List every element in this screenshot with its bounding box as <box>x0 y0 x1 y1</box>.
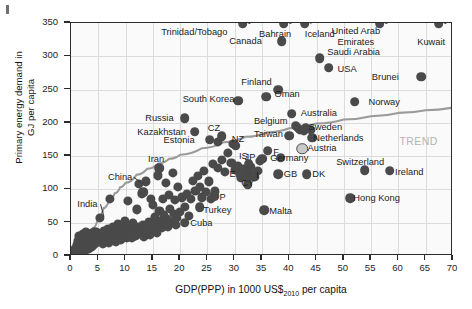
point-label-saudi-arabia: Saudi Arabia <box>327 47 380 57</box>
clipped-value-arrow-stem <box>290 22 291 24</box>
point-label-iran: Iran <box>148 154 164 164</box>
point-label-united-arab-emirates: United Arab Emirates <box>327 26 385 47</box>
point-label-cuba: Cuba <box>190 218 212 228</box>
x-tick-mark <box>97 255 98 260</box>
x-tick-mark <box>124 255 125 260</box>
x-tick-label: 55 <box>355 263 385 273</box>
point-label-dk: DK <box>312 169 325 179</box>
x-tick-mark <box>342 255 343 260</box>
point-label-trinidad-tobago: Trinidad/Tobago <box>161 27 227 37</box>
scatter-point-brunei <box>417 72 427 82</box>
clipped-value-arrow-stem <box>249 22 250 24</box>
x-tick-label: 70 <box>437 263 467 273</box>
point-label-russia: Russia <box>145 113 173 123</box>
y-tick-label: 0 <box>28 250 58 260</box>
point-label-south-korea: South Korea <box>183 94 235 104</box>
x-tick-mark <box>288 255 289 260</box>
x-tick-label: 35 <box>246 263 276 273</box>
point-label-hong-kong: Hong Kong <box>353 193 400 203</box>
point-label-estonia: Estonia <box>164 135 195 145</box>
x-tick-label: 45 <box>301 263 331 273</box>
point-label-malta: Malta <box>269 206 292 216</box>
scatter-point-dk <box>302 169 312 179</box>
scatter-point-india <box>90 227 100 237</box>
point-label-cz: CZ <box>208 123 220 133</box>
y-tick-label: 250 <box>28 84 58 94</box>
x-tick-label: 60 <box>382 263 412 273</box>
clipped-value-arrow-stem <box>445 22 446 24</box>
x-tick-mark <box>369 255 370 260</box>
point-label-kuwait: Kuwait <box>417 37 445 47</box>
point-label-austria: Austria <box>308 143 337 153</box>
x-tick-label: 30 <box>219 263 249 273</box>
scatter-point-norway <box>350 97 360 107</box>
scatter-point-russia <box>180 113 190 123</box>
point-label-australia: Australia <box>301 108 337 118</box>
y-tick-label: 350 <box>28 17 58 27</box>
point-label-ireland: Ireland <box>395 167 423 177</box>
scatter-point-ireland <box>385 166 395 176</box>
x-tick-label: 10 <box>110 263 140 273</box>
x-tick-label: 5 <box>82 263 112 273</box>
point-label-gb: GB <box>284 169 297 179</box>
point-label-canada: Canada <box>229 36 262 46</box>
point-label-netherlands: Netherlands <box>313 133 363 143</box>
x-tick-mark <box>451 255 452 260</box>
scatter-point-cuba <box>180 218 190 228</box>
point-label-is: IS <box>239 151 248 161</box>
scatter-point-usa <box>324 63 334 73</box>
trend-annotation-label: TREND <box>400 135 438 147</box>
point-label-norway: Norway <box>368 97 400 107</box>
point-label-bahrain: Bahrain <box>259 29 291 39</box>
scatter-plot-area: Trinidad/TobagoBahrainCanadaIcelandUnite… <box>70 22 452 255</box>
point-label-p: P <box>220 192 226 202</box>
point-label-usa: USA <box>338 64 357 74</box>
x-tick-label: 65 <box>410 263 440 273</box>
x-axis-title-year: 2010 <box>284 290 300 297</box>
scatter-point-p <box>209 191 219 201</box>
scatter-point-gb <box>274 169 284 179</box>
clipped-value-arrow-stem <box>386 22 387 24</box>
x-tick-label: 25 <box>191 263 221 273</box>
scatter-point-iceland <box>300 22 310 28</box>
point-label-nz: NZ <box>232 134 244 144</box>
x-tick-mark <box>151 255 152 260</box>
y-tick-label: 300 <box>28 50 58 60</box>
y-tick-label: 50 <box>28 217 58 227</box>
point-label-germany: Germany <box>270 153 308 163</box>
scatter-point-estonia <box>205 135 215 145</box>
scatter-point-iran <box>155 163 165 173</box>
x-tick-mark <box>315 255 316 260</box>
x-tick-label: 40 <box>273 263 303 273</box>
x-tick-mark <box>424 255 425 260</box>
scatter-point-kuwait <box>434 22 444 28</box>
point-label-turkey: Turkey <box>203 205 231 215</box>
x-tick-mark <box>178 255 179 260</box>
point-label-sweden: Sweden <box>308 122 342 132</box>
x-tick-mark <box>260 255 261 260</box>
scatter-point-trinidad-tobago <box>238 22 248 28</box>
point-label-e: E <box>229 169 235 179</box>
point-label-taiwan: Taiwan <box>254 129 283 139</box>
scatter-point-oman <box>262 92 272 102</box>
scatter-point-belgium <box>291 121 301 131</box>
point-label-cy: CY <box>241 178 254 188</box>
clipped-value-arrow-stem <box>310 22 311 24</box>
y-tick-label: 200 <box>28 117 58 127</box>
point-label-india: India <box>77 199 97 209</box>
point-label-belgium: Belgium <box>254 116 288 126</box>
scatter-point-bahrain <box>279 22 289 28</box>
x-tick-label: 15 <box>137 263 167 273</box>
point-label-brunei: Brunei <box>372 72 399 82</box>
point-label-finland: Finland <box>241 77 272 87</box>
scatter-point-switzerland <box>360 165 370 175</box>
point-label-china: China <box>108 172 132 182</box>
point-label-oman: Oman <box>274 89 299 99</box>
x-tick-label: 50 <box>328 263 358 273</box>
x-axis-title-main: GDP(PPP) in 1000 US$ <box>175 284 283 295</box>
scatter-point-jp <box>257 154 267 164</box>
corner-registration-mark <box>6 5 9 14</box>
scatter-point-malta <box>259 205 269 215</box>
point-label-switzerland: Switzerland <box>336 157 384 167</box>
y-axis-title-line1: Primary energy demand in <box>13 51 24 164</box>
